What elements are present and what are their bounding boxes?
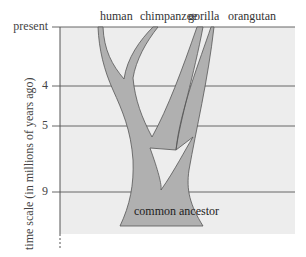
common-ancestor-label: common ancestor (134, 204, 219, 219)
tick-label-present: present (2, 19, 48, 34)
species-label-orangutan: orangutan (228, 9, 276, 24)
species-label-human: human (100, 9, 133, 24)
species-label-gorilla: gorilla (188, 9, 219, 24)
axis-title: time scale (in millions of years ago) (22, 77, 37, 250)
